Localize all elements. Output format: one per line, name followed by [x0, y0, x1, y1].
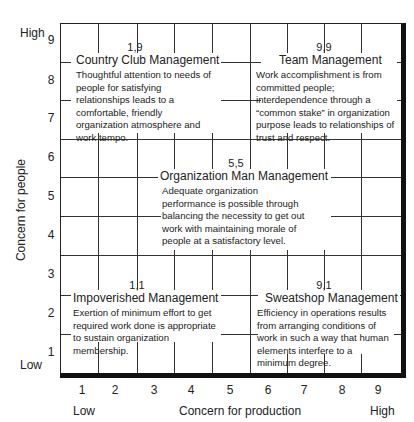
x-tick-7: 7: [297, 383, 311, 397]
x-tick-8: 8: [335, 383, 349, 397]
x-tick-6: 6: [261, 383, 275, 397]
coord-label: 9,9: [309, 41, 339, 53]
y-tick-7: 7: [44, 111, 58, 125]
x-axis-title: Concern for production: [179, 404, 301, 418]
y-tick-3: 3: [44, 267, 58, 281]
style-description: Thoughtful attention to needs of people …: [76, 69, 211, 145]
y-tick-5: 5: [44, 189, 58, 203]
x-tick-5: 5: [223, 383, 237, 397]
grid-hline: [61, 255, 401, 256]
style-description: Efficiency in operations results from ar…: [257, 307, 392, 370]
style-description: Exertion of minimum effort to get requir…: [73, 307, 218, 357]
x-tick-2: 2: [108, 383, 122, 397]
style-title: Country Club Management: [74, 53, 221, 67]
y-tick-4: 4: [44, 228, 58, 242]
style-title: Team Management: [277, 53, 384, 67]
x-tick-1: 1: [75, 383, 89, 397]
y-tick-1: 1: [44, 345, 58, 359]
y-axis-low-label: Low: [20, 358, 42, 372]
y-tick-9: 9: [44, 33, 58, 47]
y-axis-title: Concern for people: [14, 155, 28, 265]
coord-label: 1,1: [122, 279, 152, 291]
style-title: Impoverished Management: [71, 291, 220, 305]
x-tick-9: 9: [371, 383, 385, 397]
style-description: Work accomplishment is from committed pe…: [256, 69, 396, 145]
x-tick-3: 3: [147, 383, 161, 397]
y-tick-2: 2: [44, 306, 58, 320]
y-axis-high-label: High: [20, 26, 45, 40]
y-tick-6: 6: [44, 150, 58, 164]
style-title: Organization Man Management: [158, 169, 330, 183]
x-axis-high-label: High: [370, 404, 395, 418]
y-tick-8: 8: [44, 73, 58, 87]
coord-label: 5,5: [221, 157, 251, 169]
coord-label: 9,1: [309, 279, 339, 291]
x-axis-low-label: Low: [73, 404, 95, 418]
style-title: Sweatshop Management: [263, 291, 400, 305]
style-description: Adequate organization performance is pos…: [162, 185, 312, 248]
x-tick-4: 4: [184, 383, 198, 397]
coord-label: 1,9: [120, 41, 150, 53]
